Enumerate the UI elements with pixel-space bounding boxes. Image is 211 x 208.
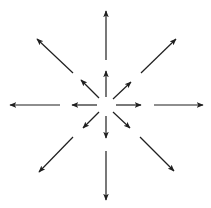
radial-field-diagram bbox=[0, 0, 211, 208]
